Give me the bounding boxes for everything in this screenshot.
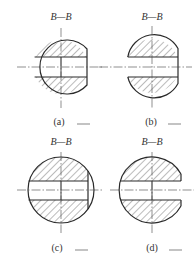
view-label: (c) — [51, 242, 62, 254]
view-label: (b) — [145, 116, 157, 128]
view-label: (a) — [53, 116, 64, 128]
view-b: B—B (b) — [99, 11, 192, 128]
view-c: B—B (c) — [17, 136, 104, 254]
view-label: (d) — [146, 242, 158, 254]
section-title: B—B — [141, 11, 162, 22]
section-title: B—B — [141, 136, 162, 147]
section-title: B—B — [50, 136, 71, 147]
view-a: B—B (a) — [17, 11, 104, 128]
view-d: B—B (d) — [110, 136, 194, 254]
section-views-diagram: B—B (a) B—B (b) B—B — [0, 0, 194, 261]
section-title: B—B — [50, 11, 71, 22]
